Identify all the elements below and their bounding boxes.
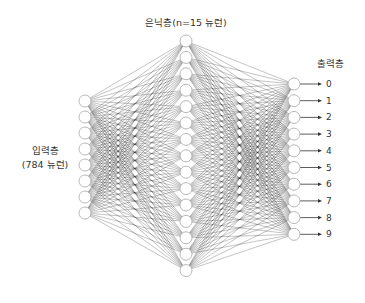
- output-digit-6: 6: [326, 179, 332, 189]
- input-neuron-node: [79, 207, 91, 219]
- output-digit-2: 2: [326, 112, 332, 122]
- hidden-layer-label: 은닉층(n=15 뉴런): [140, 16, 232, 30]
- output-neuron-node: [288, 178, 300, 190]
- output-digit-8: 8: [326, 213, 332, 223]
- hidden-neuron-node: [180, 101, 192, 113]
- hidden-neuron-node: [180, 183, 192, 195]
- input-neuron-node: [79, 95, 91, 107]
- output-digit-9: 9: [326, 229, 332, 239]
- input-layer-title: 입력층: [18, 144, 72, 158]
- hidden-neuron-node: [180, 232, 192, 244]
- output-neuron-node: [288, 195, 300, 207]
- input-neuron-node: [79, 191, 91, 203]
- output-layer-label: 출력층: [310, 57, 350, 71]
- input-layer-count: (784 뉴런): [18, 158, 72, 172]
- input-neuron-node: [79, 127, 91, 139]
- output-digit-1: 1: [326, 96, 332, 106]
- hidden-neuron-node: [180, 68, 192, 80]
- hidden-neuron-node: [180, 35, 192, 47]
- hidden-neuron-node: [180, 150, 192, 162]
- hidden-neuron-node: [180, 117, 192, 129]
- output-arrows: [300, 82, 322, 236]
- input-neuron-node: [79, 159, 91, 171]
- hidden-neuron-node: [180, 248, 192, 260]
- output-neuron-node: [288, 162, 300, 174]
- output-digit-4: 4: [326, 146, 332, 156]
- output-neuron-node: [288, 228, 300, 240]
- output-digit-7: 7: [326, 196, 332, 206]
- input-layer-label: 입력층 (784 뉴런): [18, 144, 72, 172]
- output-digit-0: 0: [326, 79, 332, 89]
- input-neuron-node: [79, 175, 91, 187]
- hidden-neuron-node: [180, 215, 192, 227]
- hidden-neuron-node: [180, 133, 192, 145]
- output-neuron-node: [288, 111, 300, 123]
- output-neuron-node: [288, 95, 300, 107]
- output-neuron-node: [288, 78, 300, 90]
- input-neuron-node: [79, 143, 91, 155]
- output-neuron-node: [288, 128, 300, 140]
- hidden-neuron-node: [180, 199, 192, 211]
- output-digit-3: 3: [326, 129, 332, 139]
- hidden-neuron-node: [180, 84, 192, 96]
- output-neuron-node: [288, 212, 300, 224]
- input-neuron-node: [79, 111, 91, 123]
- hidden-neuron-node: [180, 166, 192, 178]
- hidden-neuron-node: [180, 51, 192, 63]
- output-digit-5: 5: [326, 163, 332, 173]
- output-neuron-node: [288, 145, 300, 157]
- hidden-neuron-node: [180, 265, 192, 277]
